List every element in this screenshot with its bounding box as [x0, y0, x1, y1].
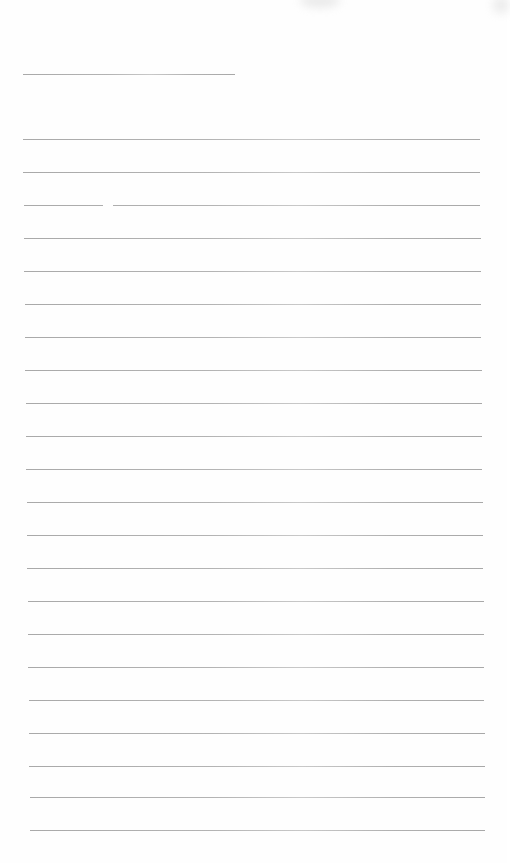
writing-rule — [27, 535, 483, 536]
scan-smudge — [492, 0, 510, 14]
writing-rule — [26, 403, 482, 404]
writing-rule — [29, 733, 485, 734]
writing-rule — [26, 436, 482, 437]
writing-rule — [28, 601, 484, 602]
writing-rule — [24, 271, 481, 272]
writing-rule — [23, 139, 480, 140]
rule-gap — [103, 204, 113, 207]
writing-rule — [27, 502, 483, 503]
writing-rule — [29, 700, 484, 701]
writing-rule — [30, 797, 485, 798]
writing-rule — [29, 766, 485, 767]
writing-rule — [25, 304, 481, 305]
name-line — [23, 74, 235, 75]
writing-rule — [23, 172, 480, 173]
writing-rule — [24, 205, 480, 206]
writing-rule — [27, 568, 483, 569]
writing-rule — [28, 667, 484, 668]
writing-rule — [28, 634, 484, 635]
scan-smudge — [300, 0, 340, 8]
writing-rule — [24, 238, 481, 239]
writing-rule — [26, 469, 482, 470]
writing-rule — [30, 830, 485, 831]
writing-rule — [25, 337, 481, 338]
writing-rule — [25, 370, 482, 371]
